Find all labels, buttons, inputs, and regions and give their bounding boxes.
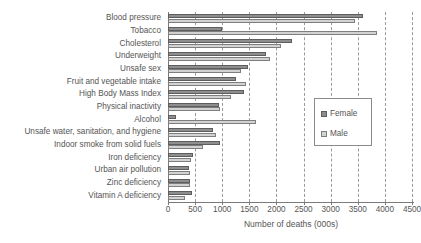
bar-group [168,101,412,114]
legend-label-male: Male [330,129,348,138]
category-label: Urban air pollution [95,165,161,174]
bar-group [168,63,412,76]
x-axis-line [168,202,414,203]
chart-legend: Female Male [314,98,372,146]
bar-female [168,52,266,56]
category-axis-labels: Blood pressureTobaccoCholesterolUnderwei… [0,12,165,202]
bar-male [168,69,241,73]
legend-item-female[interactable]: Female [321,109,357,118]
category-label: Unsafe water, sanitation, and hygiene [24,127,161,136]
bar-group [168,139,412,152]
x-tick-label: 500 [188,205,202,214]
x-tick-label: 0 [166,205,171,214]
bar-female [168,191,192,195]
x-axis-title: Number of deaths (000s) [168,219,414,229]
bar-chart: Blood pressureTobaccoCholesterolUnderwei… [0,0,421,243]
legend-item-male[interactable]: Male [321,129,348,138]
bar-group [168,126,412,139]
bar-female [168,153,193,157]
plot-area [168,12,412,202]
bar-group [168,177,412,190]
x-tick-label: 4000 [376,205,394,214]
female-swatch-icon [321,111,327,117]
bar-male [168,171,190,175]
category-label: High Body Mass Index [79,89,161,98]
category-label: Underweight [115,51,161,60]
bar-female [168,103,219,107]
bar-male [168,196,185,200]
x-tick-label: 3000 [322,205,340,214]
bar-male [168,133,216,137]
bar-female [168,90,244,94]
bar-female [168,39,292,43]
bar-group [168,37,412,50]
bar-female [168,128,213,132]
legend-label-female: Female [330,109,357,118]
bar-male [168,31,377,35]
category-label: Unsafe sex [120,64,161,73]
bar-group [168,189,412,202]
bar-male [168,57,270,61]
x-tick-label: 1000 [213,205,231,214]
bar-group [168,12,412,25]
bar-group [168,50,412,63]
bar-group [168,75,412,88]
category-label: Alcohol [134,115,161,124]
bar-male [168,120,256,124]
category-label: Iron deficiency [108,153,161,162]
category-label: Fruit and vegetable intake [67,77,161,86]
bar-group [168,88,412,101]
category-label: Zinc deficiency [107,178,161,187]
bar-female [168,166,189,170]
bar-male [168,158,191,162]
gridline-4500 [412,12,413,202]
bar-male [168,145,203,149]
bar-group [168,164,412,177]
bar-male [168,44,281,48]
bar-female [168,27,222,31]
bar-female [168,141,220,145]
bar-male [168,19,355,23]
x-tick-label: 1500 [240,205,258,214]
bar-group [168,25,412,38]
bar-female [168,77,236,81]
category-label: Physical inactivity [97,102,161,111]
bar-female [168,115,176,119]
x-tick-label: 3500 [349,205,367,214]
x-tick-label: 2500 [294,205,312,214]
category-label: Tobacco [131,26,162,35]
bar-male [168,95,231,99]
x-tick-label: 4500 [403,205,421,214]
bar-female [168,14,363,18]
category-label: Blood pressure [106,13,161,22]
bar-group [168,151,412,164]
bar-male [168,107,220,111]
bar-group [168,113,412,126]
category-label: Indoor smoke from solid fuels [54,140,161,149]
bar-female [168,179,190,183]
bar-female [168,65,248,69]
male-swatch-icon [321,131,327,137]
bar-male [168,183,190,187]
category-label: Cholesterol [120,39,161,48]
category-label: Vitamin A deficiency [88,191,161,200]
x-tick-label: 2000 [267,205,285,214]
bar-male [168,82,246,86]
